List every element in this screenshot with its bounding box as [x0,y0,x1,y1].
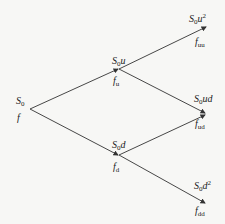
node-root-value: f [17,113,20,123]
tree-edges [0,0,225,224]
edge-root-d [30,109,118,155]
node-uu-price: S0u2 [189,14,206,24]
node-root-price: S0 [16,96,25,106]
edge-d-ud [119,115,205,155]
edge-d-dd [119,155,205,203]
node-d-value: fd [113,162,119,172]
node-ud-value: fud [195,119,205,129]
node-dd-price: S0d2 [194,181,211,191]
node-ud-price: S0ud [194,94,213,104]
node-u-value: fu [113,76,119,86]
node-d-price: S0d [112,140,126,150]
edge-u-uu [119,27,206,69]
node-uu-value: fuu [195,37,205,47]
node-u-price: S0u [112,56,126,66]
binomial-tree-diagram: S0 f S0u fu S0d fd S0u2 fuu S0ud fud S0d… [0,0,225,224]
edge-u-ud [119,69,205,113]
node-dd-value: fdd [195,206,205,216]
edge-root-u [30,69,118,109]
